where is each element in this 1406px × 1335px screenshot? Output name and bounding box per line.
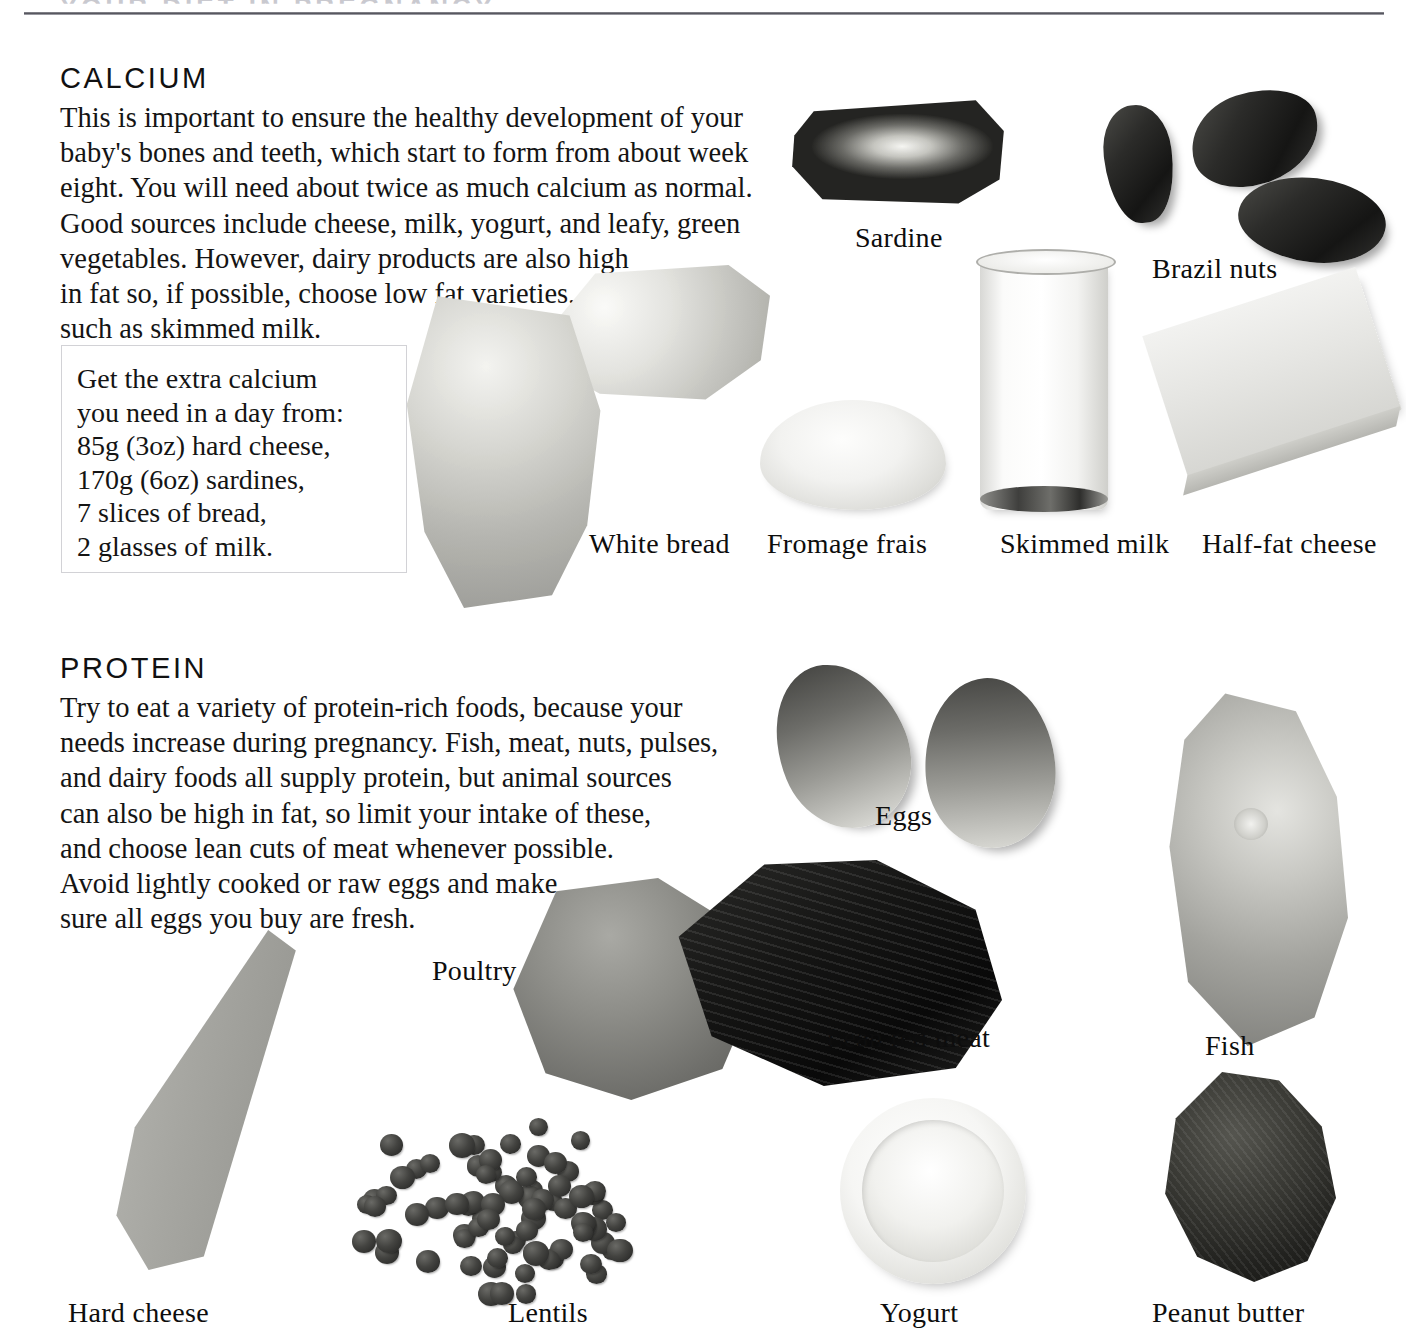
caption-skimmed-milk: Skimmed milk <box>1000 528 1169 560</box>
lentil-seed <box>476 1165 496 1184</box>
photo-sardine <box>790 98 1006 208</box>
lentil-seed <box>606 1213 626 1232</box>
caption-fish: Fish <box>1205 1030 1254 1062</box>
caption-peanut-butter: Peanut butter <box>1152 1297 1304 1329</box>
caption-white-bread: White bread <box>589 528 730 560</box>
lentil-seed <box>573 1223 594 1242</box>
calcium-callout-box: Get the extra calcium you need in a day … <box>61 345 407 573</box>
lentil-seed <box>460 1256 482 1276</box>
caption-fromage-frais: Fromage frais <box>767 528 927 560</box>
photo-egg-2 <box>919 674 1061 853</box>
lentil-seed <box>449 1133 475 1157</box>
caption-sardine: Sardine <box>855 222 943 254</box>
lentil-seed <box>500 1134 522 1154</box>
lentil-seed <box>529 1118 548 1136</box>
photo-peanut-butter <box>1158 1072 1336 1282</box>
photo-yogurt <box>840 1098 1026 1284</box>
photo-lentils <box>334 1108 650 1304</box>
caption-hard-cheese: Hard cheese <box>68 1297 209 1329</box>
caption-yogurt: Yogurt <box>880 1297 958 1329</box>
lentil-seed <box>515 1264 535 1283</box>
photo-skimmed-milk-glass <box>980 258 1108 510</box>
photo-half-fat-cheese <box>1142 267 1401 479</box>
photo-fish <box>1162 690 1348 1046</box>
lentil-seed <box>544 1152 567 1173</box>
lentil-seed <box>580 1254 602 1275</box>
photo-hard-cheese <box>98 930 328 1270</box>
lentil-seed <box>607 1239 632 1263</box>
lentil-seed <box>352 1230 376 1252</box>
lentil-seed <box>516 1220 539 1241</box>
lentil-seed <box>420 1154 440 1173</box>
section-heading-protein: PROTEIN <box>60 652 207 685</box>
lentil-seed <box>522 1198 546 1220</box>
lentil-seed <box>445 1193 469 1215</box>
lentil-seed <box>516 1167 537 1187</box>
caption-lean-red-meat: Lean red meat <box>826 1022 990 1054</box>
lentil-seed <box>376 1229 401 1253</box>
lentil-seed <box>495 1227 515 1245</box>
calcium-callout-text: Get the extra calcium you need in a day … <box>77 362 344 564</box>
lentil-seed <box>405 1203 429 1226</box>
lentil-seed <box>569 1185 594 1208</box>
lentil-seed <box>380 1134 403 1156</box>
lentil-seed <box>548 1175 571 1197</box>
lentil-seed <box>523 1241 549 1265</box>
lentil-seed <box>477 1209 499 1230</box>
section-heading-calcium: CALCIUM <box>60 62 209 95</box>
header-rule <box>24 12 1384 15</box>
lentil-seed <box>416 1250 440 1273</box>
caption-brazil-nuts: Brazil nuts <box>1152 253 1277 285</box>
photo-brazil-nut-1 <box>1098 101 1180 226</box>
lentil-seed <box>390 1166 415 1190</box>
caption-half-fat-cheese: Half-fat cheese <box>1202 528 1377 560</box>
lentil-seed <box>364 1196 386 1217</box>
caption-lentils: Lentils <box>508 1297 588 1329</box>
photo-fromage-frais <box>760 400 946 510</box>
lentil-seed <box>571 1131 591 1150</box>
caption-poultry: Poultry <box>432 955 517 987</box>
caption-eggs: Eggs <box>875 800 932 832</box>
